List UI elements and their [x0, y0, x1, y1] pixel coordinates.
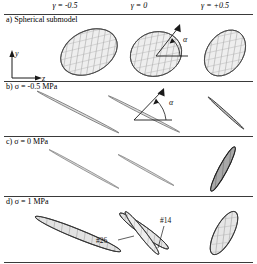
column-header-gamma-neg: γ = -0.5 [30, 1, 100, 10]
callout-14-label: #14 [160, 216, 172, 225]
ellipsoid-a-gamma-pos [196, 24, 256, 80]
ellipsoid-a-gamma-neg [50, 24, 128, 80]
alpha-arrow-icon [174, 24, 181, 32]
alpha-label-b: α [169, 98, 174, 107]
column-header-row: γ = -0.5 γ = 0 γ = +0.5 [0, 0, 257, 14]
alpha-label-a: α [183, 35, 188, 44]
callout-26-label: #26 [96, 236, 108, 245]
axis-arrow-z-icon [35, 75, 42, 80]
callout-26: #26 [96, 236, 134, 245]
figure-panel-grid: γ = -0.5 γ = 0 γ = +0.5 a) Spherical sub… [0, 0, 257, 264]
row-label-d: d) σ = 1 MPa [6, 197, 49, 206]
alpha-angle-marker-b: α [134, 88, 174, 120]
ellipsoid-a-gamma-zero: α [122, 24, 202, 80]
coordinate-axes: y z [4, 48, 50, 80]
row-label-a: a) Spherical submodel [6, 15, 78, 24]
ellipsoid-c-gamma-zero [110, 148, 182, 192]
alpha-arrow-icon [158, 88, 165, 97]
column-header-gamma-pos: γ = +0.5 [180, 1, 250, 10]
ellipsoid-b-gamma-zero: α [104, 90, 196, 136]
axis-arrow-y-icon [9, 50, 14, 57]
ellipsoid-14 [123, 210, 162, 257]
ellipsoid-c-gamma-pos [192, 144, 254, 194]
row-label-c: c) σ = 0 MPa [6, 137, 48, 146]
ellipsoid-b-gamma-pos [198, 92, 254, 134]
axis-label-y: y [14, 49, 19, 58]
ellipsoid-d-gamma-zero: #26 #14 [98, 206, 194, 264]
column-header-gamma-zero: γ = 0 [108, 1, 170, 10]
ellipsoid-d-gamma-pos [194, 206, 254, 260]
